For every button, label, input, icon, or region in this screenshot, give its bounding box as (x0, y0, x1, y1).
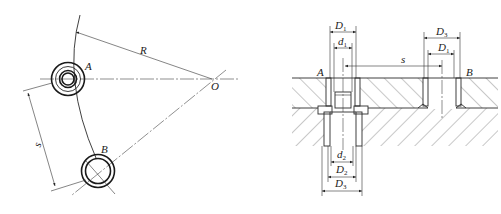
left-plan-view: R O A B s (23, 15, 238, 195)
svg-text:d2: d2 (337, 148, 347, 162)
svg-text:D1: D1 (437, 41, 450, 55)
technical-diagram: R O A B s (0, 0, 501, 214)
svg-text:D2: D2 (335, 163, 348, 177)
svg-text:D3: D3 (435, 25, 448, 39)
spacing-s-label-right: s (401, 53, 405, 65)
point-a-label: A (84, 60, 92, 72)
center-o-label: O (211, 80, 219, 92)
spacing-s-label-left: s (31, 141, 44, 148)
s-dimension-line (28, 93, 55, 186)
label-D3-b: D (435, 25, 444, 37)
radial-centerline-ob (72, 70, 226, 195)
point-a-label-right: A (316, 66, 324, 78)
top-plate-section (292, 78, 498, 108)
point-b-label: B (101, 143, 108, 155)
svg-text:D1: D1 (334, 19, 347, 33)
point-b-label-right: B (466, 66, 473, 78)
label-D3-bottom: D (334, 177, 343, 189)
label-D1-b: D (437, 41, 446, 53)
right-section-view: D1 d1 s D3 D1 A B d2 D2 D3 (292, 19, 498, 196)
hole-b-plan (82, 155, 116, 195)
radius-label: R (139, 44, 147, 56)
label-D1-a: D (334, 19, 343, 31)
svg-text:d1: d1 (338, 35, 348, 49)
s-extension-top (23, 83, 52, 91)
s-extension-bottom (51, 180, 86, 191)
pitch-arc (74, 15, 96, 158)
svg-text:D3: D3 (334, 177, 347, 191)
label-D2: D (335, 163, 344, 175)
